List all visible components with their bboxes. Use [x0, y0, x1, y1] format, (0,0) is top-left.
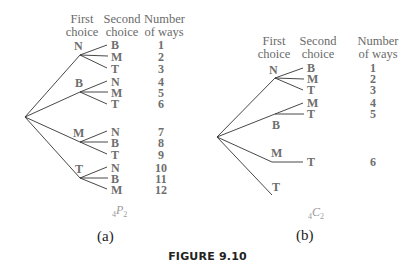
notation-subscript: 2 [123, 210, 127, 219]
second-choice-label: M [111, 184, 122, 196]
first-choice-label: T [75, 163, 83, 175]
header-text: Second [100, 13, 144, 26]
second-choice-label: T [111, 149, 119, 161]
header-text: Second [296, 35, 340, 48]
first-choice-label: N [269, 64, 278, 76]
header-text: Number [144, 13, 184, 26]
way-number: 3 [363, 84, 383, 96]
first-choice-label: B [75, 77, 83, 89]
header-first-choice-b: First choice [252, 35, 296, 60]
header-first-choice-a: First choice [60, 13, 104, 38]
figure-9-10: First choice Second choice Number of way… [0, 0, 415, 280]
notation-letter: C [312, 205, 320, 219]
first-choice-label: T [272, 181, 280, 193]
second-choice-label: T [111, 98, 119, 110]
first-choice-label: B [272, 119, 280, 131]
header-text: of ways [144, 26, 184, 39]
header-text: Number [356, 35, 400, 48]
header-text: choice [252, 48, 296, 61]
header-text: First [60, 13, 104, 26]
way-number: 9 [151, 149, 171, 161]
header-text: of ways [356, 48, 400, 61]
header-number-of-ways-a: Number of ways [144, 13, 184, 38]
header-text: choice [296, 48, 340, 61]
header-text: First [252, 35, 296, 48]
first-choice-label: M [271, 147, 282, 159]
second-choice-label: T [307, 84, 315, 96]
subfigure-label-b: (b) [296, 227, 314, 244]
header-second-choice-a: Second choice [100, 13, 144, 38]
way-number: 6 [151, 98, 171, 110]
header-text: choice [60, 26, 104, 39]
tree-lines [0, 0, 415, 280]
way-number: 12 [151, 184, 171, 196]
second-choice-label: T [307, 108, 315, 120]
first-choice-label: M [73, 127, 84, 139]
way-number: 6 [363, 156, 383, 168]
subfigure-label-a: (a) [97, 228, 114, 245]
way-number: 5 [363, 108, 383, 120]
combination-notation: 4C2 [308, 205, 324, 221]
figure-caption: FIGURE 9.10 [0, 250, 415, 263]
way-number: 3 [151, 63, 171, 75]
header-number-of-ways-b: Number of ways [356, 35, 400, 60]
second-choice-label: T [307, 156, 315, 168]
notation-subscript: 2 [320, 212, 324, 221]
first-choice-label: N [74, 40, 83, 52]
header-second-choice-b: Second choice [296, 35, 340, 60]
permutation-notation: 4P2 [112, 203, 127, 219]
header-text: choice [100, 26, 144, 39]
second-choice-label: T [111, 63, 119, 75]
